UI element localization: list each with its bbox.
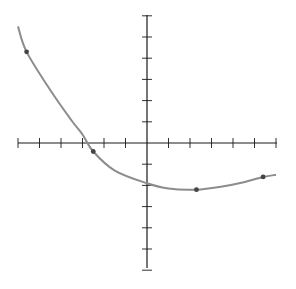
data-point bbox=[24, 49, 29, 54]
data-point bbox=[91, 149, 96, 154]
data-point bbox=[261, 175, 266, 180]
data-point bbox=[194, 187, 199, 192]
data-points bbox=[24, 49, 265, 192]
function-graph bbox=[0, 0, 296, 289]
